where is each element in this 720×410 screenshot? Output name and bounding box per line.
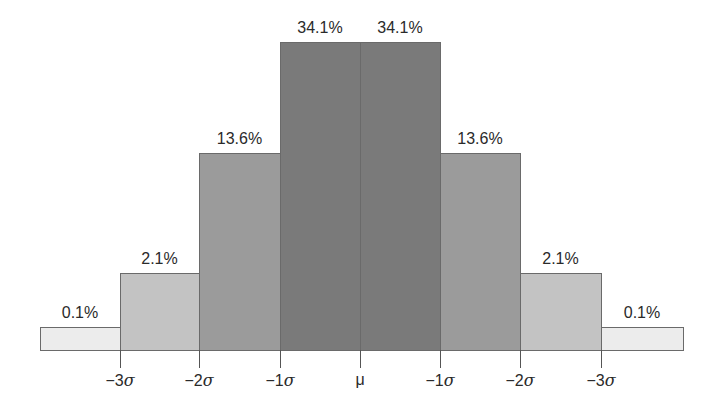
bar-value-label: 2.1% <box>521 250 601 268</box>
bar <box>199 153 281 351</box>
axis-tick <box>280 350 281 368</box>
bar-value-label: 34.1% <box>280 19 360 37</box>
axis-tick-label: −3σ <box>90 371 150 390</box>
axis-tick <box>601 350 602 368</box>
bar-value-label: 0.1% <box>40 304 120 322</box>
axis-tick <box>199 350 200 368</box>
axis-tick <box>120 350 121 368</box>
bar <box>280 42 361 351</box>
axis-tick-label: −2σ <box>169 371 229 390</box>
bar-value-label: 2.1% <box>120 250 200 268</box>
axis-tick <box>520 350 521 368</box>
bar <box>360 42 441 351</box>
bar <box>40 327 121 351</box>
bar-value-label: 34.1% <box>360 19 440 37</box>
axis-tick <box>440 350 441 368</box>
axis-tick-label: −3σ <box>571 371 631 390</box>
axis-tick-label: −1σ <box>410 371 470 390</box>
axis-tick <box>360 350 361 368</box>
bar-value-label: 13.6% <box>440 130 520 148</box>
bar <box>120 273 200 351</box>
axis-tick-label: μ <box>330 371 390 389</box>
bar <box>601 327 684 351</box>
bar-value-label: 13.6% <box>200 130 280 148</box>
axis-tick-label: −2σ <box>490 371 550 390</box>
bar-value-label: 0.1% <box>602 304 682 322</box>
bar <box>520 273 602 351</box>
bar <box>440 153 521 351</box>
axis-tick-label: −1σ <box>250 371 310 390</box>
